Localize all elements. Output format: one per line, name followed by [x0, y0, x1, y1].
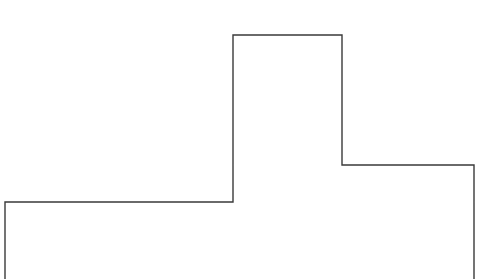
diagram-canvas — [0, 0, 490, 279]
stepped-outline — [5, 35, 474, 279]
